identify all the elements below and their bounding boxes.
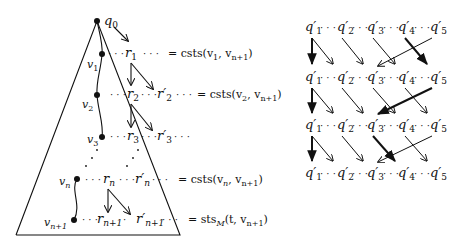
svg-text:· · ·: · · · [352,72,368,83]
svg-text:q′4: q′4 [398,165,415,182]
svg-text:· · ·: · · · [352,120,368,131]
svg-text:· · ·: · · · [110,131,126,142]
svg-text:q′3: q′3 [367,69,384,86]
label-v2: v2 [82,98,93,113]
svg-text:· · ·: · · · [143,48,159,59]
svg-text:= csts(v2, vn+1): = csts(v2, vn+1) [197,88,282,103]
label-vn: vn [59,175,70,190]
svg-text:= csts(v1, vn+1): = csts(v1, vn+1) [168,47,253,62]
svg-text:q′5: q′5 [430,117,447,134]
svg-text:· · ·: · · · [414,22,430,33]
row-2: · · · r2 · · · r′2 · · · = csts(v2, vn+1… [110,86,282,103]
svg-text:· · ·: · · · [152,174,168,185]
node-v1 [99,51,105,57]
svg-text:r2: r2 [127,86,139,103]
svg-text:· · ·: · · · [85,174,101,185]
svg-text:· · ·: · · · [352,22,368,33]
row-n-plus-1: · · · rn+1 · r′n+1 · · · = stsM(t, vn+1) [82,211,268,228]
node-v2 [94,92,100,98]
row-1: · · · r1 · · · = csts(v1, vn+1) [108,45,253,62]
label-v1: v1 [87,58,98,73]
svg-text:r′n+1: r′n+1 [136,211,164,228]
svg-text:· · ·: · · · [320,72,336,83]
diagram-canvas: q0 v1 v2 v3 vn vn+1 · · · r1 · · · = cst… [0,0,457,249]
row-n: · · · rn · · · r′n · · · = csts(vn, vn+1… [85,171,263,188]
svg-text:q′5: q′5 [430,19,447,36]
svg-text:= stsM(t, vn+1): = stsM(t, vn+1) [188,213,268,228]
svg-text:· · ·: · · · [320,120,336,131]
node-vn [74,176,80,182]
svg-text:· · ·: · · · [383,168,399,179]
svg-text:· · ·: · · · [82,214,98,225]
svg-text:r′2: r′2 [157,86,172,103]
svg-text:· · ·: · · · [141,89,157,100]
svg-text:q′4: q′4 [398,117,415,134]
svg-text:· · ·: · · · [108,48,124,59]
svg-text:· · ·: · · · [320,168,336,179]
svg-text:r1: r1 [125,45,137,62]
svg-text:· · ·: · · · [162,214,178,225]
q-row-2: q′1 · · · q′2 · · · q′3 · · · q′4 · · · … [305,69,447,86]
svg-text:q′3: q′3 [367,165,384,182]
svg-text:· · ·: · · · [414,72,430,83]
q-row-3: q′1 · · · q′2 · · · q′3 · · · q′4 · · · … [305,117,447,134]
svg-text:r3: r3 [127,128,139,145]
svg-text:q′3: q′3 [367,117,384,134]
svg-text:· · ·: · · · [320,22,336,33]
svg-text:·: · [123,214,126,225]
node-dots [71,18,105,223]
svg-text:q′5: q′5 [430,165,447,182]
svg-text:rn: rn [103,171,115,188]
svg-text:· · ·: · · · [119,174,135,185]
svg-text:q′4: q′4 [398,69,415,86]
label-vn1: vn+1 [44,216,67,231]
svg-text:· · ·: · · · [383,72,399,83]
node-path-lower [74,179,77,220]
svg-text:q′3: q′3 [367,19,384,36]
svg-text:· · ·: · · · [176,89,192,100]
node-q0 [94,18,100,24]
svg-text:· · ·: · · · [174,131,190,142]
svg-text:· · ·: · · · [414,168,430,179]
svg-text:· · ·: · · · [383,22,399,33]
node-path [97,21,103,137]
svg-text:= csts(vn, vn+1): = csts(vn, vn+1) [178,173,263,188]
q-grid: q′1 · · · q′2 · · · q′3 · · · q′4 · · · … [305,19,447,182]
svg-text:q′5: q′5 [430,69,447,86]
label-q0: q0 [104,13,118,30]
svg-text:rn+1: rn+1 [97,211,122,228]
svg-text:· · ·: · · · [141,131,157,142]
svg-text:r′3: r′3 [157,128,172,145]
svg-text:· · ·: · · · [352,168,368,179]
label-v3: v3 [87,133,98,148]
q-row-4: q′1 · · · q′2 · · · q′3 · · · q′4 · · · … [305,165,447,182]
svg-text:· · ·: · · · [110,89,126,100]
node-v3 [99,134,105,140]
node-ellipsis [85,149,139,167]
q-row-1: q′1 · · · q′2 · · · q′3 · · · q′4 · · · … [305,19,447,36]
svg-text:r′n: r′n [135,171,150,188]
grid-arrows [312,38,432,162]
svg-text:· · ·: · · · [383,120,399,131]
svg-text:q′4: q′4 [398,19,415,36]
svg-text:· · ·: · · · [414,120,430,131]
row-3: · · · r3 · · · r′3 · · · [110,128,190,145]
node-vn1 [71,217,77,223]
